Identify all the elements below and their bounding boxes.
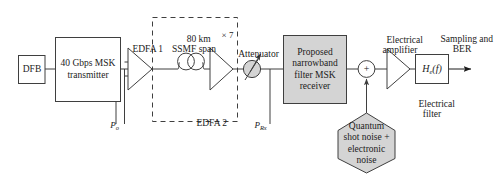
summing-node-label: +: [358, 60, 375, 77]
p-rx-label: PRx: [245, 110, 266, 140]
fiber-span-label: 80 kmSSMF span: [172, 23, 216, 66]
optical-system-block-diagram: DFB 40 Gbps MSKtransmitter Po EDFA 1 × 7…: [0, 0, 503, 175]
transmitter-label: 40 Gbps MSKtransmitter: [55, 37, 121, 102]
attenuator-label: Attenuator: [229, 38, 279, 70]
dfb-label: DFB: [18, 55, 46, 84]
edfa1-label: EDFA 1: [123, 33, 163, 65]
edfa2-label: EDFA 2: [187, 107, 227, 139]
electrical-filter-label: Electricalfilter: [409, 88, 455, 131]
p-out-label: Po: [101, 110, 119, 140]
noise-source-label: Quantumshot noise +electronicnoise: [336, 116, 397, 171]
receiver-label: Proposednarrowbandfilter MSKreceiver: [283, 35, 347, 104]
output-label: Sampling andBER: [431, 23, 493, 66]
